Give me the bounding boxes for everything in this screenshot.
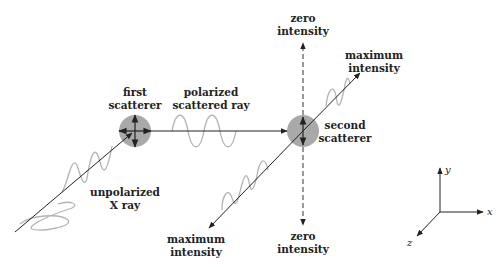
first-scatterer-label: first scatterer (108, 86, 161, 111)
xyz-axes (417, 168, 483, 236)
label-line: intensity (345, 62, 403, 75)
maximum-intensity-bottom-label: maximum intensity (167, 233, 225, 258)
diagram-canvas (0, 0, 503, 267)
label-line: intensity (167, 246, 225, 259)
label-line: intensity (277, 25, 329, 38)
z-axis-label: z (407, 237, 412, 248)
label-line: scatterer (108, 99, 161, 112)
zero-intensity-top-label: zero intensity (277, 12, 329, 37)
label-line: maximum (167, 233, 225, 246)
label-line: unpolarized (90, 186, 160, 199)
polarized-ray (151, 115, 287, 147)
second-scatterer-label: second scatterer (318, 119, 371, 144)
label-line: second (318, 119, 371, 132)
x-axis-label: x (487, 206, 493, 217)
zero-intensity-bottom-label: zero intensity (277, 230, 329, 255)
maximum-intensity-top-label: maximum intensity (345, 49, 403, 74)
label-line: zero (277, 230, 329, 243)
label-line: zero (277, 12, 329, 25)
first-scatterer (119, 115, 151, 147)
unpolarized-label: unpolarized X ray (90, 186, 160, 211)
y-axis-label: y (445, 164, 451, 175)
label-line: scattered ray (172, 99, 249, 112)
label-line: maximum (345, 49, 403, 62)
polarized-ray-label: polarized scattered ray (172, 86, 249, 111)
label-line: polarized (172, 86, 249, 99)
label-line: intensity (277, 243, 329, 256)
unpolarized-ray (15, 133, 132, 232)
label-line: first (108, 86, 161, 99)
label-line: scatterer (318, 132, 371, 145)
label-line: X ray (90, 199, 160, 212)
